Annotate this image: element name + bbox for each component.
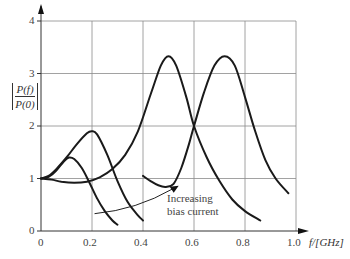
x-tick-label: 0.4 (134, 237, 148, 248)
y-label-denominator: P(0) (15, 97, 35, 110)
annotation-line2: bias current (167, 205, 219, 218)
x-tick-label: 1.0 (287, 237, 301, 248)
y-axis-arrow-icon (38, 4, 44, 14)
curve-series-1 (41, 157, 118, 224)
x-axis-label-text: f/[GHz] (309, 236, 344, 248)
x-axis-arrow-icon (298, 228, 309, 234)
y-tick-label: 0 (29, 225, 35, 236)
y-tick-label: 2 (29, 120, 35, 131)
x-axis-label: f/[GHz] (309, 236, 344, 248)
annotation-text: Increasing bias current (167, 192, 219, 218)
x-tick-label: 0.6 (185, 237, 199, 248)
x-tick-label: 0.8 (236, 237, 250, 248)
y-label-numerator: P(f) (15, 83, 35, 97)
y-axis-label: P(f) P(0) (10, 83, 40, 110)
y-tick-label: 3 (29, 68, 35, 79)
y-tick-label: 1 (29, 173, 35, 184)
x-tick-label: 0.2 (83, 237, 97, 248)
x-tick-label: 0 (38, 237, 44, 248)
plot-area (0, 0, 350, 259)
curve-series-3 (41, 56, 260, 220)
curves (41, 56, 288, 225)
y-tick-label: 4 (29, 15, 35, 26)
annotation-line1: Increasing (167, 192, 219, 205)
